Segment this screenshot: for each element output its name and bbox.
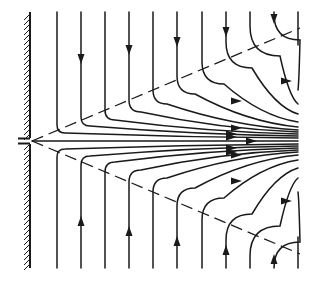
streamline — [274, 192, 300, 268]
streamlines-upper — [57, 12, 300, 138]
streamline — [129, 12, 298, 132]
arrow-down-icon — [223, 27, 230, 37]
streamline — [226, 12, 298, 114]
streamline-diagram — [0, 0, 312, 282]
arrow-right-icon — [231, 152, 242, 159]
arrow-down-icon — [271, 14, 278, 24]
arrow-up-icon — [223, 245, 230, 255]
wall — [24, 12, 30, 270]
arrow-right-icon — [246, 138, 257, 145]
streamlines-lower — [57, 144, 300, 268]
arrow-up-icon — [174, 236, 181, 246]
centerline-streamline — [32, 138, 298, 145]
arrow-up-icon — [126, 226, 133, 236]
slot — [18, 139, 30, 144]
streamline — [274, 12, 300, 90]
arrow-right-icon — [231, 125, 242, 132]
arrow-down-icon — [174, 37, 181, 47]
arrow-right-icon — [231, 98, 242, 105]
lower-separatrix — [32, 141, 300, 254]
arrow-up-icon — [78, 216, 85, 226]
arrow-right-icon — [231, 178, 242, 185]
streamline — [226, 168, 298, 268]
arrow-down-icon — [126, 45, 133, 55]
arrow-down-icon — [78, 54, 85, 64]
upper-separatrix — [32, 28, 300, 141]
streamline — [250, 12, 298, 104]
streamline — [177, 155, 298, 268]
streamline — [177, 12, 298, 127]
